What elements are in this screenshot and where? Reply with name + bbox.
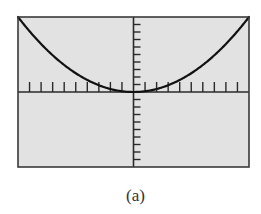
graphing-calculator-screen <box>0 0 261 180</box>
figure-caption: (a) <box>0 186 261 206</box>
